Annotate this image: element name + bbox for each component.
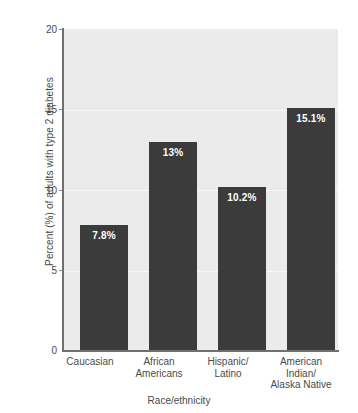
bar-value-hispanic-latino: 10.2% [218,192,266,203]
x-tick-label-american-indian-alaska-native: AmericanIndian/Alaska Native [256,356,346,391]
x-axis-title: Race/ethnicity [0,395,358,406]
bar-hispanic-latino: 10.2% [218,187,266,351]
bar-value-caucasian: 7.8% [80,230,128,241]
y-tick-label-5: 5 [31,265,57,276]
x-tick-label-caucasian: Caucasian [52,356,128,368]
y-tick-label-0: 0 [31,345,57,356]
bar-american-indian-alaska-native: 15.1% [287,108,335,351]
bar-value-american-indian-alaska-native: 15.1% [287,113,335,124]
x-tick-label-african-americans: AfricanAmericans [121,356,197,379]
y-tick-label-20: 20 [31,24,57,35]
bar-african-americans: 13% [149,142,197,351]
y-axis-line [62,28,64,352]
x-tick-label-hispanic-latino: Hispanic/Latino [190,356,266,379]
y-tick-label-15: 15 [31,104,57,115]
y-tick-label-10: 10 [31,185,57,196]
plot-area: 7.8% 13% 10.2% 15.1% [64,29,338,351]
bar-caucasian: 7.8% [80,225,128,351]
bar-chart-figure: Percent (%) of adults with type 2 diabet… [0,0,358,413]
bar-value-african-americans: 13% [149,147,197,158]
x-axis-line [62,350,339,352]
